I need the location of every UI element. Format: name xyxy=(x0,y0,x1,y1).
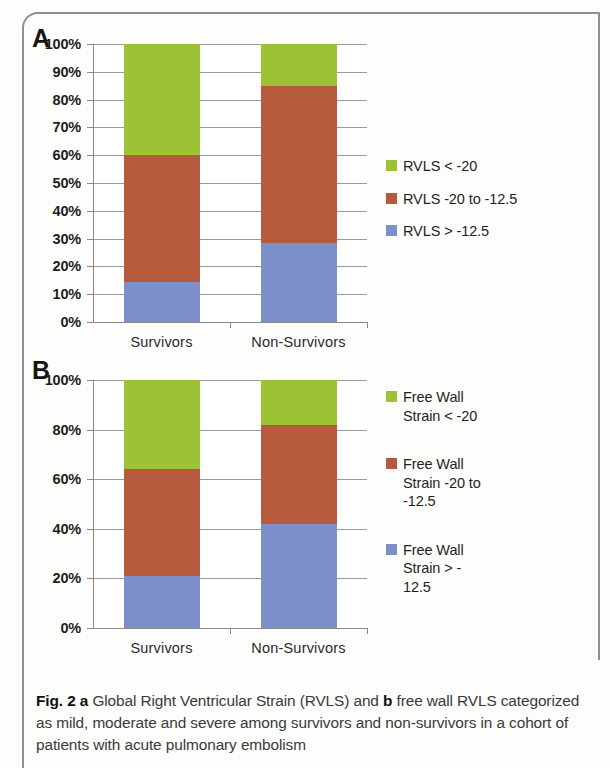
y-axis-label: 60% xyxy=(53,471,81,487)
legend-swatch-icon xyxy=(386,160,397,171)
y-axis-label: 100% xyxy=(45,36,81,52)
bar-segment xyxy=(124,282,200,322)
bar-segment xyxy=(124,576,200,628)
bar-segment xyxy=(261,524,337,628)
legend-item: RVLS < -20 xyxy=(386,157,586,176)
legend-label: RVLS > -12.5 xyxy=(403,222,489,241)
bar-segment xyxy=(261,86,337,243)
legend-swatch-icon xyxy=(386,458,397,469)
legend-label: Free Wall Strain > - 12.5 xyxy=(403,541,464,597)
y-axis-label: 10% xyxy=(53,286,81,302)
legend-label: Free Wall Strain -20 to -12.5 xyxy=(403,455,481,511)
panel-b-plot-area: 100%80%60%40%20%0%SurvivorsNon-Survivors xyxy=(93,380,367,628)
y-axis-label: 40% xyxy=(53,203,81,219)
legend-item: Free Wall Strain -20 to -12.5 xyxy=(386,455,586,511)
legend-label: RVLS -20 to -12.5 xyxy=(403,190,517,209)
stacked-bar xyxy=(261,380,337,628)
caption-fig-number: Fig. 2 xyxy=(36,692,76,709)
y-axis-label: 60% xyxy=(53,147,81,163)
caption-text-1: Global Right Ventricular Strain (RVLS) a… xyxy=(88,692,383,709)
x-axis-tick xyxy=(230,628,231,634)
y-axis-label: 90% xyxy=(53,64,81,80)
panel-b-legend: Free Wall Strain < -20Free Wall Strain -… xyxy=(386,388,586,626)
stacked-bar xyxy=(124,44,200,322)
legend-item: Free Wall Strain > - 12.5 xyxy=(386,541,586,597)
y-axis-label: 30% xyxy=(53,231,81,247)
y-axis-label: 20% xyxy=(53,570,81,586)
y-axis-label: 70% xyxy=(53,119,81,135)
legend-label: RVLS < -20 xyxy=(403,157,477,176)
legend-item: RVLS -20 to -12.5 xyxy=(386,190,586,209)
y-axis-label: 80% xyxy=(53,422,81,438)
legend-item: Free Wall Strain < -20 xyxy=(386,388,586,425)
bar-segment xyxy=(124,155,200,281)
legend-swatch-icon xyxy=(386,544,397,555)
bar-segment xyxy=(261,425,337,524)
panel-b: B 100%80%60%40%20%0%SurvivorsNon-Survivo… xyxy=(0,330,610,670)
caption-marker-a: a xyxy=(80,692,88,709)
y-axis-label: 20% xyxy=(53,258,81,274)
caption-left-rule xyxy=(22,660,24,768)
bar-segment xyxy=(261,380,337,425)
panel-a-plot-area: 100%90%80%70%60%50%40%30%20%10%0%Survivo… xyxy=(93,44,367,322)
legend-swatch-icon xyxy=(386,225,397,236)
panel-a: A 100%90%80%70%60%50%40%30%20%10%0%Survi… xyxy=(0,0,610,355)
bar-segment xyxy=(124,380,200,469)
legend-swatch-icon xyxy=(386,193,397,204)
y-axis-label: 40% xyxy=(53,521,81,537)
y-axis-label: 50% xyxy=(53,175,81,191)
bar-segment xyxy=(124,44,200,155)
y-axis-label: 0% xyxy=(60,314,81,330)
legend-swatch-icon xyxy=(386,391,397,402)
x-axis-label: Survivors xyxy=(93,640,230,656)
x-axis-tick xyxy=(367,322,368,328)
x-axis-label: Non-Survivors xyxy=(230,640,367,656)
panel-a-legend: RVLS < -20RVLS -20 to -12.5RVLS > -12.5 xyxy=(386,157,586,255)
x-axis-tick xyxy=(367,628,368,634)
bar-segment xyxy=(261,44,337,86)
x-axis-tick xyxy=(230,322,231,328)
bar-segment xyxy=(124,469,200,576)
figure-page: A 100%90%80%70%60%50%40%30%20%10%0%Survi… xyxy=(0,0,610,768)
y-axis-line xyxy=(93,380,94,628)
bar-segment xyxy=(261,243,337,322)
y-axis-label: 80% xyxy=(53,92,81,108)
stacked-bar xyxy=(261,44,337,322)
stacked-bar xyxy=(124,380,200,628)
legend-label: Free Wall Strain < -20 xyxy=(403,388,477,425)
legend-item: RVLS > -12.5 xyxy=(386,222,586,241)
figure-caption: Fig. 2 a Global Right Ventricular Strain… xyxy=(36,690,588,756)
y-axis-label: 100% xyxy=(45,372,81,388)
y-axis-label: 0% xyxy=(60,620,81,636)
caption-marker-b: b xyxy=(383,692,392,709)
y-axis-line xyxy=(93,44,94,322)
